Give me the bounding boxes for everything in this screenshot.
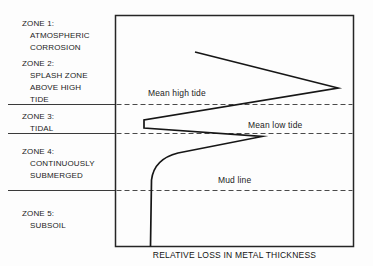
zone-2-line: SPLASH ZONE: [22, 70, 88, 82]
mean-high-tide-label: Mean high tide: [148, 88, 206, 98]
zone-4-line: SUBMERGED: [22, 170, 95, 182]
mean-low-tide-label: Mean low tide: [248, 120, 302, 130]
zone-2-line: ZONE 2:: [22, 58, 88, 70]
corrosion-zones-diagram: ZONE 1: ATMOSPHERIC CORROSION ZONE 2: SP…: [0, 0, 373, 266]
zone-2-label: ZONE 2: SPLASH ZONE ABOVE HIGH TIDE: [22, 58, 88, 106]
zone-3-line: TIDAL: [22, 123, 54, 135]
zone-1-label: ZONE 1: ATMOSPHERIC CORROSION: [22, 18, 90, 54]
zone-4-line: CONTINUOUSLY: [22, 158, 95, 170]
zone-5-line: SUBSOIL: [22, 220, 66, 232]
zone-1-line: ATMOSPHERIC: [22, 30, 90, 42]
x-axis-label: RELATIVE LOSS IN METAL THICKNESS: [115, 250, 354, 260]
mud-line-label: Mud line: [218, 175, 251, 185]
zone-1-line: CORROSION: [22, 42, 90, 54]
zone-3-label: ZONE 3: TIDAL: [22, 111, 54, 135]
zone-2-line: ABOVE HIGH: [22, 82, 88, 94]
zone-5-line: ZONE 5:: [22, 208, 66, 220]
zone-1-line: ZONE 1:: [22, 18, 90, 30]
zone-3-line: ZONE 3:: [22, 111, 54, 123]
zone-2-line: TIDE: [22, 94, 88, 106]
zone-4-label: ZONE 4: CONTINUOUSLY SUBMERGED: [22, 146, 95, 182]
zone-4-line: ZONE 4:: [22, 146, 95, 158]
relative-metal-loss-curve: [144, 52, 338, 246]
zone-5-label: ZONE 5: SUBSOIL: [22, 208, 66, 232]
